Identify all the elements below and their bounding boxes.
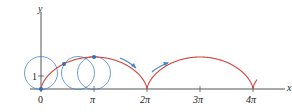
x-axis-label: x bbox=[286, 82, 292, 93]
x-tick-2pi: 2π bbox=[140, 94, 151, 105]
point-mid bbox=[62, 62, 66, 66]
cycloid-curve bbox=[41, 57, 257, 89]
x-tick-3pi: 3π bbox=[192, 94, 204, 105]
axes bbox=[30, 12, 285, 92]
y-axis-label: y bbox=[37, 3, 43, 14]
y-tick-1: 1 bbox=[32, 71, 37, 82]
rolling-circles bbox=[25, 57, 111, 90]
point-origin bbox=[39, 87, 43, 91]
cycloid-figure: y x 1 0 π 2π 3π 4π bbox=[0, 0, 292, 112]
x-tick-4pi: 4π bbox=[246, 94, 257, 105]
x-tick-pi: π bbox=[90, 94, 96, 105]
circle-mid bbox=[62, 57, 95, 90]
circle-top bbox=[78, 57, 111, 90]
point-top bbox=[92, 55, 96, 59]
x-tick-0: 0 bbox=[38, 94, 43, 105]
